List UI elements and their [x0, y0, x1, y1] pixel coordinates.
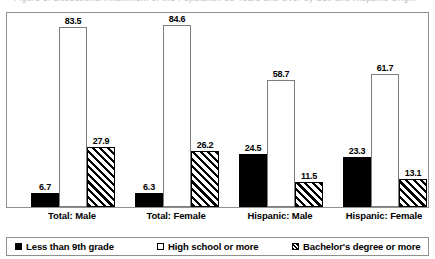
bar-value-label: 58.7 [273, 69, 290, 79]
bar: 6.7 [31, 193, 59, 207]
cut-off-title-text: Figure 1. Educational Attainment of the … [14, 0, 416, 3]
bar: 26.2 [191, 151, 219, 207]
bar-group: 24.558.711.5 [239, 13, 323, 207]
bar-slot: 13.1 [399, 13, 427, 207]
bar-value-label: 26.2 [197, 140, 214, 150]
category-label: Total: Female [146, 210, 205, 221]
bar-slot: 26.2 [191, 13, 219, 207]
bar: 61.7 [371, 74, 399, 207]
bar: 83.5 [59, 27, 87, 207]
category-label: Total: Male [48, 210, 96, 221]
bar-value-label: 84.6 [169, 14, 186, 24]
bar: 6.3 [135, 193, 163, 207]
bar-value-label: 27.9 [93, 136, 110, 146]
bar-slot: 61.7 [371, 13, 399, 207]
bar: 27.9 [87, 147, 115, 207]
bar: 11.5 [295, 182, 323, 207]
bar-slot: 6.7 [31, 13, 59, 207]
legend-swatch-solid-icon [15, 243, 22, 250]
bar-value-label: 83.5 [65, 16, 82, 26]
legend-label: High school or more [168, 241, 258, 252]
bar: 58.7 [267, 80, 295, 207]
category-label: Hispanic: Female [346, 210, 423, 221]
bar-slot: 11.5 [295, 13, 323, 207]
bar-slot: 58.7 [267, 13, 295, 207]
category-axis-labels: Total: MaleTotal: FemaleHispanic: MaleHi… [6, 210, 429, 228]
bar-slot: 83.5 [59, 13, 87, 207]
bar-group: 6.783.527.9 [31, 13, 115, 207]
bar-group: 23.361.713.1 [343, 13, 427, 207]
chart-legend: Less than 9th grade High school or more … [6, 237, 429, 256]
plot-area: 6.783.527.96.384.626.224.558.711.523.361… [6, 12, 429, 208]
bar-slot: 27.9 [87, 13, 115, 207]
legend-swatch-hatch-icon [292, 243, 299, 250]
legend-label: Bachelor's degree or more [303, 241, 421, 252]
bar: 24.5 [239, 154, 267, 207]
bar-slot: 23.3 [343, 13, 371, 207]
bar-slot: 24.5 [239, 13, 267, 207]
bar: 13.1 [399, 179, 427, 207]
bar-group: 6.384.626.2 [135, 13, 219, 207]
legend-swatch-outline-icon [157, 243, 164, 250]
legend-item-less-than-9th-grade: Less than 9th grade [15, 241, 114, 252]
bar-value-label: 61.7 [377, 63, 394, 73]
bar-value-label: 23.3 [349, 146, 366, 156]
category-label: Hispanic: Male [247, 210, 312, 221]
bar: 84.6 [163, 25, 191, 207]
plot-inner: 6.783.527.96.384.626.224.558.711.523.361… [7, 13, 428, 207]
chart-root: Figure 1. Educational Attainment of the … [0, 0, 435, 259]
legend-label: Less than 9th grade [26, 241, 114, 252]
bar-value-label: 6.3 [143, 182, 155, 192]
bar-slot: 6.3 [135, 13, 163, 207]
bar-value-label: 24.5 [245, 143, 262, 153]
legend-item-bachelors-degree-or-more: Bachelor's degree or more [292, 241, 421, 252]
cut-off-title-strip: Figure 1. Educational Attainment of the … [0, 0, 435, 11]
bar-value-label: 11.5 [301, 171, 317, 181]
bar-value-label: 6.7 [39, 182, 51, 192]
bar: 23.3 [343, 157, 371, 207]
bar-slot: 84.6 [163, 13, 191, 207]
bar-value-label: 13.1 [405, 168, 422, 178]
legend-item-high-school-or-more: High school or more [157, 241, 258, 252]
